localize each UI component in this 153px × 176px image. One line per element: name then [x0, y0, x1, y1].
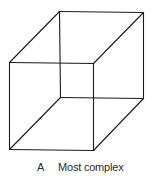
front-top-edge — [10, 63, 94, 64]
bottom-left-depth-edge — [10, 98, 61, 150]
front-bottom-edge — [10, 150, 94, 151]
cube-edges — [10, 12, 144, 151]
back-bottom-edge — [61, 98, 144, 99]
top-left-depth-edge — [10, 12, 60, 63]
bottom-right-depth-edge — [94, 99, 144, 151]
figure-label: A — [37, 161, 44, 174]
back-top-edge — [60, 12, 144, 13]
figure-caption: Most complex — [58, 161, 123, 174]
back-left-edge — [60, 12, 61, 98]
top-right-depth-edge — [94, 13, 144, 64]
necker-cube-diagram — [0, 0, 153, 176]
